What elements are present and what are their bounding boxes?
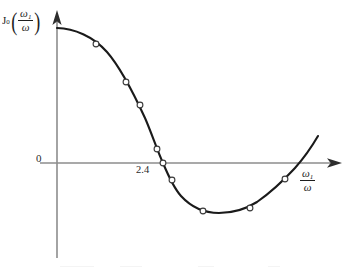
zero-crossing-tick-value: 2.4 — [136, 164, 166, 175]
bessel-function-plot: J0(ω1ω) ω1ω 0 2.4 — [0, 0, 352, 270]
data-point-marker — [137, 102, 143, 108]
data-point-marker — [93, 41, 99, 47]
y-axis-label-fraction-numerator: ω1 — [19, 8, 32, 20]
data-point-marker — [123, 79, 129, 85]
y-axis-label-function-subscript: 0 — [6, 19, 10, 26]
data-curve-group — [57, 28, 318, 213]
x-axis-label-fraction-numerator: ω1 — [301, 168, 314, 180]
y-axis-label-numerator-subscript: 1 — [28, 13, 32, 21]
origin-tick-label: 0 — [36, 152, 54, 170]
y-axis-label: J0(ω1ω) — [2, 8, 60, 42]
zero-crossing-tick-label: 2.4 — [136, 164, 166, 182]
axes-group — [40, 10, 342, 258]
x-axis-label-fraction-denominator: ω — [300, 180, 315, 193]
x-axis-label-numerator-subscript: 1 — [310, 173, 314, 181]
data-point-marker — [282, 176, 288, 182]
data-point-marker — [154, 146, 160, 152]
data-point-marker — [169, 177, 175, 183]
bessel-j0-curve — [57, 28, 318, 213]
x-axis-label: ω1ω — [300, 168, 344, 204]
data-point-marker — [200, 208, 206, 214]
plot-canvas: J0(ω1ω) ω1ω 0 2.4 — [0, 0, 352, 270]
data-point-markers — [93, 41, 288, 214]
origin-tick-value: 0 — [36, 152, 54, 164]
y-axis-label-fraction-denominator: ω — [18, 20, 33, 33]
data-point-marker — [247, 205, 253, 211]
x-axis-label-fraction: ω1ω — [301, 168, 314, 193]
y-axis-label-fraction: ω1ω — [19, 8, 32, 33]
